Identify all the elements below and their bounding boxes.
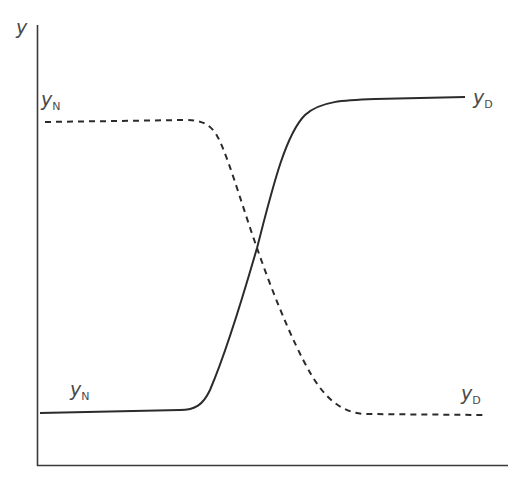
solid-curve: [40, 97, 465, 413]
y-axis-label: y: [15, 16, 28, 38]
dashed-right-label: yD: [460, 382, 481, 407]
dashed-left-label: yN: [40, 88, 60, 113]
sigmoid-transition-diagram: y yN yD yN yD: [0, 0, 529, 478]
dashed-curve: [45, 120, 485, 415]
diagram-canvas: y yN yD yN yD: [0, 0, 529, 478]
solid-left-label: yN: [69, 378, 89, 403]
solid-right-label: yD: [472, 86, 493, 111]
